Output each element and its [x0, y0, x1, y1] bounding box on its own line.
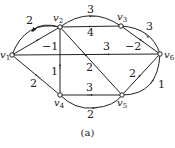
edge-v5-v4-arc: 2: [60, 95, 122, 121]
node-v6: v6: [158, 49, 175, 62]
edge-v4-v5: 3: [60, 81, 122, 95]
figure-caption: (a): [0, 127, 175, 138]
weight-label: −2: [125, 40, 141, 53]
edge-v4-v2: 1: [51, 27, 60, 95]
edge-v5-v6: 2: [122, 54, 160, 95]
weight-label: −1: [42, 40, 58, 53]
weight-label: 2: [86, 61, 93, 74]
weight-label: 1: [158, 78, 165, 91]
node-label: v6: [164, 49, 175, 62]
edge-v3-v2-arc: 3: [60, 3, 121, 27]
weight-label: 2: [26, 14, 33, 27]
weight-label: 2: [87, 108, 94, 121]
node-label: v1: [0, 49, 10, 62]
weight-label: 3: [87, 3, 94, 16]
node-label: v5: [117, 97, 127, 110]
weight-label: 3: [103, 40, 110, 53]
graph-diagram: 2 −1 3 2 3 4 1 2: [0, 0, 175, 148]
weight-label: 1: [51, 65, 58, 78]
node-v3: v3: [117, 11, 127, 28]
weight-label: 2: [129, 67, 136, 80]
node-label: v4: [54, 97, 65, 110]
weight-label: 4: [87, 26, 94, 39]
weight-label: 3: [86, 81, 93, 94]
node-v1: v1: [0, 49, 14, 62]
weight-label: 3: [146, 20, 153, 33]
node-label: v3: [117, 11, 127, 24]
node-label: v2: [53, 12, 63, 25]
weight-label: 2: [30, 77, 37, 90]
